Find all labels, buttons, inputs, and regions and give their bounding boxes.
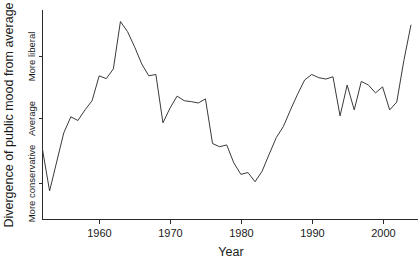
y-axis-ticks [39, 57, 43, 184]
y-tick-label: More conservative [26, 145, 37, 223]
y-tick-label: Average [26, 101, 37, 136]
public-mood-line-chart: More conservativeAverageMore liberal 196… [0, 0, 420, 265]
x-tick-label: 1990 [300, 227, 324, 239]
y-tick-label: More liberal [26, 32, 37, 82]
x-tick-label: 2000 [371, 227, 395, 239]
x-tick-label: 1970 [158, 227, 182, 239]
x-axis-tick-labels: 19601970198019902000 [87, 227, 395, 239]
x-axis-ticks [100, 220, 384, 224]
y-axis-title: Divergence of public mood from average [2, 2, 16, 227]
chart-canvas: More conservativeAverageMore liberal 196… [0, 0, 420, 265]
y-axis-category-labels: More conservativeAverageMore liberal [26, 32, 37, 223]
public-mood-data-line [43, 22, 411, 191]
x-tick-label: 1960 [87, 227, 111, 239]
x-axis-title: Year [218, 245, 243, 259]
x-tick-label: 1980 [229, 227, 253, 239]
